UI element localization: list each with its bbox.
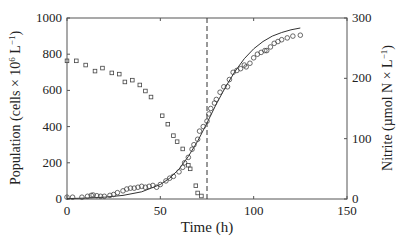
population-marker [238,66,243,71]
population-marker [207,112,212,117]
population-marker [285,36,290,41]
population-marker [279,37,284,42]
nitrite-marker [188,167,192,171]
nitrite-marker [181,147,185,151]
nitrite-marker [123,80,127,84]
y-axis-label: Population (cells × 106 L−1) [7,31,24,186]
y-tick-label: 400 [43,119,63,134]
nitrite-marker [117,72,121,76]
nitrite-marker [75,59,79,63]
y-right-tick-label: 0 [352,191,359,206]
x-tick-label: 100 [244,203,264,218]
nitrite-marker [196,191,200,195]
nitrite-marker [166,122,170,126]
y-tick-label: 200 [43,155,63,170]
model-fit-curve [67,28,300,199]
population-marker [251,56,256,61]
y-right-tick-label: 100 [352,131,372,146]
x-tick-label: 50 [154,203,167,218]
x-tick-label: 0 [64,203,71,218]
nitrite-marker [172,134,176,138]
nitrite-marker [149,95,153,99]
y-axis-right-label: Nitrite (µmol N × L−1) [379,45,396,171]
nitrite-marker [200,194,204,198]
population-marker [177,170,182,175]
chart-svg: 050100150 02004006008001000 0100200300 T… [0,0,404,241]
population-marker [248,61,253,66]
x-axis-label: Time (h) [181,219,233,236]
y-tick-label: 800 [43,46,63,61]
population-marker [268,45,273,50]
population-points [65,33,303,200]
x-axis-ticks: 050100150 [64,18,357,218]
population-marker [208,106,213,111]
nitrite-points [65,59,203,198]
nitrite-marker [110,71,114,75]
nitrite-marker [93,69,97,73]
population-marker [298,33,303,38]
population-marker [180,165,185,170]
nitrite-marker [131,78,135,82]
y-tick-label: 0 [56,191,63,206]
nitrite-marker [194,184,198,188]
nitrite-marker [101,66,105,70]
y-tick-label: 600 [43,82,63,97]
population-marker [214,97,219,102]
nitrite-marker [84,63,88,67]
y-axis-right-ticks: 0100200300 [344,10,372,206]
y-right-tick-label: 300 [352,10,372,25]
chart-container: 050100150 02004006008001000 0100200300 T… [0,0,404,241]
population-marker [291,34,296,39]
y-axis-ticks: 02004006008001000 [36,10,70,206]
nitrite-marker [160,114,164,118]
population-marker [115,190,120,195]
y-tick-label: 1000 [36,10,62,25]
nitrite-marker [138,83,142,87]
nitrite-marker [175,140,179,144]
nitrite-marker [187,163,191,167]
nitrite-marker [144,89,148,93]
population-marker [218,90,223,95]
fit-line [67,28,300,199]
population-marker [197,129,202,134]
y-right-tick-label: 200 [352,70,372,85]
